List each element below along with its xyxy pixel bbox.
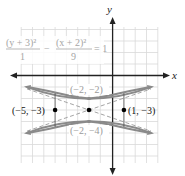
- equation-rhs: = 1: [94, 43, 107, 54]
- vertex-marker-lower: [88, 120, 91, 123]
- equation-term1-denominator: 1: [20, 51, 25, 62]
- vertex-marker-upper: [88, 97, 91, 100]
- equation-term1-numerator: (y + 3)²: [6, 37, 36, 49]
- equation-term2-numerator: (x + 2)²: [56, 37, 86, 49]
- x-axis-right-arrow-icon: [163, 73, 170, 79]
- center-point: [87, 108, 92, 113]
- x-axis-label: x: [171, 69, 177, 81]
- vertex-label-upper: (−2, −2): [70, 84, 103, 96]
- point-label-right: (1, −3): [128, 105, 155, 117]
- point-label-left: (−5, −3): [12, 105, 45, 117]
- vertex-label-lower: (−2, −4): [70, 125, 103, 137]
- y-axis-label: y: [106, 3, 112, 15]
- point-right: [122, 108, 127, 113]
- hyperbola-graph: x y (−2, −2) (−2, −4) (−5, −3) (1, −3) (…: [0, 0, 185, 176]
- x-axis-left-arrow-icon: [10, 73, 17, 79]
- equation-minus: −: [44, 43, 50, 54]
- point-left: [53, 108, 58, 113]
- y-axis-up-arrow-icon: [110, 17, 116, 24]
- equation-term2-denominator: 9: [71, 51, 76, 62]
- y-axis-down-arrow-icon: [110, 168, 116, 175]
